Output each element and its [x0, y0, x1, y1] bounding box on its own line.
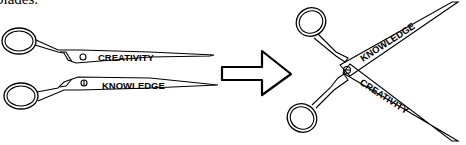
blade-label-creativity-joined: CREATIVITY	[358, 76, 411, 116]
finger-ring-icon	[291, 2, 331, 41]
right-scissors-joined	[282, 2, 458, 141]
finger-ring-icon	[282, 98, 322, 137]
finger-ring-icon	[4, 83, 38, 109]
blade-label-creativity: CREATIVITY	[98, 52, 154, 63]
pivot-open-circle-icon	[80, 54, 86, 60]
scissors-diagram: CREATIVITY KNOWLEDGE KNOWLEDGE CREATIVIT…	[0, 0, 466, 145]
blade-label-knowledge-joined: KNOWLEDGE	[358, 20, 417, 63]
blade-label-knowledge: KNOWLEDGE	[102, 80, 165, 91]
right-arrow-icon	[222, 51, 291, 95]
finger-ring-icon	[2, 28, 36, 54]
